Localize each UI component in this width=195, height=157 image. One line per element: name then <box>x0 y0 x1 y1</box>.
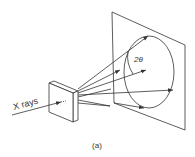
angle-label: 2θ <box>133 55 143 64</box>
crystal-side-face <box>73 91 78 122</box>
ray <box>78 89 111 97</box>
ray <box>78 100 110 106</box>
figure-caption: (a) <box>92 141 102 150</box>
ray <box>78 103 110 106</box>
incident-label: X rays <box>12 96 40 112</box>
diffraction-diagram: X rays 2θ (a) <box>0 0 195 157</box>
